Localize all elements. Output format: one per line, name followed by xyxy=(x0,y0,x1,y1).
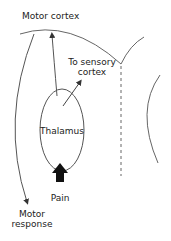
thalamus-label: Thalamus xyxy=(38,126,86,136)
motor-cortex-label: Motor cortex xyxy=(22,11,79,21)
motor-response-label: Motor response xyxy=(8,209,56,229)
right-hemisphere-arc xyxy=(147,75,160,163)
to-sensory-label-line1: To sensory xyxy=(68,57,116,67)
motor-response-label-line1: Motor xyxy=(8,209,56,219)
to-sensory-cortex-arrow xyxy=(63,82,80,106)
to-sensory-cortex-label: To sensory cortex xyxy=(68,57,116,77)
motor-response-label-line2: response xyxy=(8,219,56,229)
motor-response-pathway xyxy=(15,34,34,202)
pain-label: Pain xyxy=(46,193,74,203)
ascending-to-motor-cortex-pathway xyxy=(52,35,57,96)
pain-pathway-diagram xyxy=(0,0,171,241)
to-sensory-label-line2: cortex xyxy=(68,67,116,77)
pain-arrow-icon xyxy=(52,163,68,182)
